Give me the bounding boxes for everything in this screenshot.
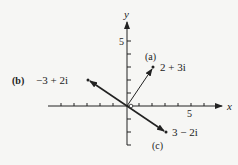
vector-a-tag: (a) bbox=[145, 51, 156, 63]
vector-b-tag: (b) bbox=[12, 75, 24, 87]
point-b bbox=[87, 79, 90, 82]
y-axis-label: y bbox=[123, 8, 129, 20]
x-tick-label-5: 5 bbox=[187, 108, 192, 119]
complex-plane-diagram: x 5 y 5 (a) 2 + 3i (b) −3 + 2i bbox=[0, 0, 238, 165]
y-axis: y 5 bbox=[119, 8, 131, 145]
x-axis-label: x bbox=[226, 100, 232, 112]
y-tick-label-5: 5 bbox=[119, 36, 124, 47]
vector-a-label: 2 + 3i bbox=[160, 61, 186, 73]
vector-c-tag: (c) bbox=[152, 140, 163, 152]
point-a bbox=[152, 66, 155, 69]
y-ticks bbox=[127, 41, 131, 145]
point-c bbox=[165, 131, 168, 134]
vector-c-label: 3 − 2i bbox=[172, 126, 198, 138]
vector-a: (a) 2 + 3i bbox=[127, 51, 186, 106]
vector-b-label: −3 + 2i bbox=[36, 74, 68, 86]
origin-marker bbox=[129, 104, 133, 108]
x-axis: x 5 bbox=[48, 100, 232, 119]
vector-b: (b) −3 + 2i bbox=[12, 74, 127, 106]
